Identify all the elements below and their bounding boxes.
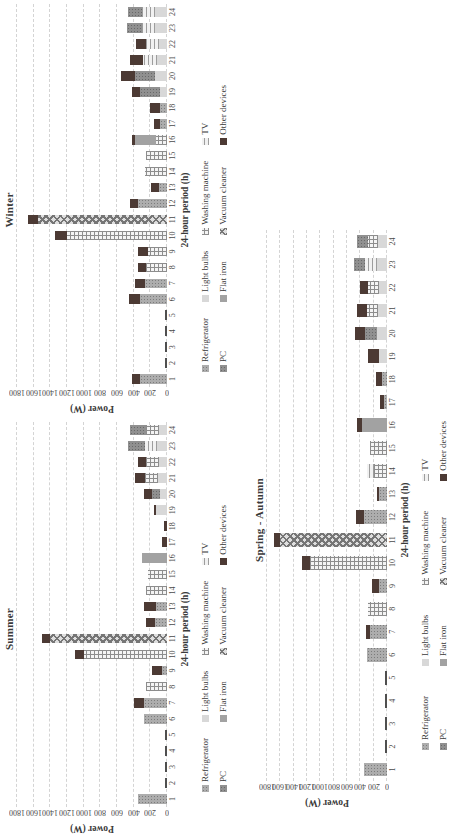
x-tick-label: 1 xyxy=(167,791,178,807)
stacked-bar-hour-1 xyxy=(17,374,167,384)
zero-value-dash xyxy=(385,740,387,754)
stacked-bar-hour-5 xyxy=(17,310,167,320)
bar-segment-pc xyxy=(140,87,159,97)
legend-swatch-vacuum_cleaner-icon xyxy=(220,228,227,235)
x-tick-label: 19 xyxy=(167,502,178,518)
stacked-bar-hour-19 xyxy=(267,349,387,363)
legend-item-light_bulbs: Light bulbs xyxy=(420,615,430,666)
legend: RefrigeratorLight bulbsWashing machineTV… xyxy=(200,4,228,372)
bar-slot xyxy=(267,529,387,552)
bar-slot xyxy=(267,551,387,574)
bar-slot xyxy=(267,597,387,620)
stacked-bar-hour-5 xyxy=(267,671,387,685)
stacked-bar-hour-21 xyxy=(17,473,167,483)
stacked-bar-hour-21 xyxy=(17,55,167,65)
bar-segment-washing_machine xyxy=(146,263,167,273)
bar-segment-other_devices xyxy=(130,199,138,209)
bar-segment-refrigerator xyxy=(159,183,167,193)
bar-segment-other_devices xyxy=(130,55,143,65)
x-tick-label: 23 xyxy=(167,438,178,454)
stacked-bar-hour-18 xyxy=(17,103,167,113)
bar-segment-other_devices xyxy=(150,103,159,113)
bar-segment-vacuum_cleaner xyxy=(280,533,387,547)
bar-slot xyxy=(17,339,167,355)
bar-slot xyxy=(17,630,167,646)
bar-segment-light_bulbs xyxy=(158,473,167,483)
bar-segment-other_devices xyxy=(302,556,311,570)
legend-item-other_devices: Other devices xyxy=(218,505,228,565)
bars-canvas xyxy=(267,230,387,781)
x-tick-label: 17 xyxy=(387,391,398,414)
bar-slot xyxy=(267,483,387,506)
bar-segment-light_bulbs xyxy=(378,235,387,249)
bar-segment-tv xyxy=(145,441,158,451)
bar-segment-light_bulbs xyxy=(156,505,167,515)
bar-slot xyxy=(267,368,387,391)
bar-segment-other_devices xyxy=(75,650,83,660)
y-axis-title: Power (W) xyxy=(17,823,167,836)
legend-swatch-washing_machine-icon xyxy=(202,648,209,655)
zero-value-dash xyxy=(165,326,167,336)
bar-segment-other_devices xyxy=(164,521,167,531)
bar-segment-washing_machine xyxy=(368,235,378,249)
legend-item-pc: PC xyxy=(438,696,448,750)
legend-swatch-tv-icon xyxy=(202,138,209,145)
bars-canvas xyxy=(17,422,167,807)
x-tick-label: 8 xyxy=(167,259,178,275)
stacked-bar-hour-10 xyxy=(17,231,167,241)
stacked-bar-hour-20 xyxy=(267,327,387,341)
bar-slot xyxy=(17,711,167,727)
bar-slot xyxy=(17,20,167,36)
x-axis-ticks: 123456789101112131415161718192021222324 xyxy=(167,4,178,387)
bar-slot xyxy=(17,275,167,291)
bar-segment-refrigerator xyxy=(384,395,387,409)
x-tick-label: 9 xyxy=(167,243,178,259)
legend-label: Vacuum cleaner xyxy=(438,517,448,575)
zero-value-dash xyxy=(165,762,167,772)
stacked-bar-hour-11 xyxy=(267,533,387,547)
x-tick-label: 5 xyxy=(167,727,178,743)
legend-label: Flat iron xyxy=(438,625,448,656)
legend-item-light_bulbs: Light bulbs xyxy=(200,251,210,302)
bar-segment-refrigerator xyxy=(379,579,387,593)
bar-segment-refrigerator xyxy=(162,666,167,676)
legend-swatch-flat_iron-icon xyxy=(220,295,227,302)
stacked-bar-hour-14 xyxy=(17,167,167,177)
legend-swatch-washing_machine-icon xyxy=(422,578,429,585)
legend-item-vacuum_cleaner: Vacuum cleaner xyxy=(218,161,228,235)
stacked-bar-hour-10 xyxy=(17,650,167,660)
legend-label: Refrigerator xyxy=(420,696,430,740)
legend-label: Other devices xyxy=(218,85,228,135)
x-axis-title: 24-hour period (h) xyxy=(178,422,192,836)
legend-item-refrigerator: Refrigerator xyxy=(200,738,210,792)
bar-segment-washing_machine xyxy=(84,650,167,660)
zero-value-dash xyxy=(165,310,167,320)
bar-segment-other_devices xyxy=(42,634,50,644)
stacked-bar-hour-16 xyxy=(17,135,167,145)
stacked-bar-hour-5 xyxy=(17,730,167,740)
x-tick-label: 2 xyxy=(167,355,178,371)
bar-slot xyxy=(267,437,387,460)
legend-label: Other devices xyxy=(218,505,228,555)
legend-label: PC xyxy=(438,729,448,740)
plot-area xyxy=(17,422,167,807)
bar-segment-tv xyxy=(142,23,155,33)
bar-segment-washing_machine xyxy=(146,151,167,161)
x-tick-label: 20 xyxy=(167,486,178,502)
bar-segment-pc xyxy=(128,7,142,17)
bar-segment-other_devices xyxy=(162,537,167,547)
y-axis-ticks: 020040060080010001200140016001800 xyxy=(17,387,167,403)
legend-item-refrigerator: Refrigerator xyxy=(420,696,430,750)
bar-slot xyxy=(17,355,167,371)
bar-segment-refrigerator xyxy=(155,618,168,628)
legend-label: Washing machine xyxy=(420,511,430,575)
x-tick-label: 6 xyxy=(167,711,178,727)
x-tick-label: 21 xyxy=(167,52,178,68)
bar-slot xyxy=(17,227,167,243)
x-tick-label: 22 xyxy=(387,276,398,299)
bar-slot xyxy=(17,291,167,307)
x-tick-label: 13 xyxy=(167,598,178,614)
bar-segment-washing_machine xyxy=(368,602,387,616)
bar-slot xyxy=(17,438,167,454)
legend-label: Washing machine xyxy=(200,161,210,225)
